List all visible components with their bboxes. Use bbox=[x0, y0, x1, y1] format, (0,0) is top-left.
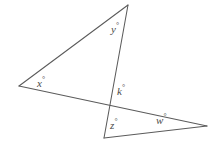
degree-icon: ° bbox=[164, 112, 167, 121]
degree-icon: ° bbox=[114, 117, 117, 126]
degree-icon: ° bbox=[42, 75, 45, 84]
degree-icon: ° bbox=[122, 83, 125, 92]
diagram-canvas bbox=[0, 0, 218, 150]
angle-label-w: w° bbox=[156, 113, 167, 126]
angle-label-y: y° bbox=[111, 22, 119, 35]
angle-label-x: x° bbox=[37, 76, 45, 89]
segment-left-to-apex bbox=[19, 5, 128, 86]
segment-bottom-to-right bbox=[104, 126, 207, 138]
degree-icon: ° bbox=[116, 21, 119, 30]
angle-label-k: k° bbox=[117, 84, 125, 97]
angle-label-w-text: w bbox=[156, 114, 164, 126]
angle-label-z: z° bbox=[110, 118, 118, 131]
angle-diagram-figure: y° x° k° z° w° bbox=[0, 0, 218, 150]
